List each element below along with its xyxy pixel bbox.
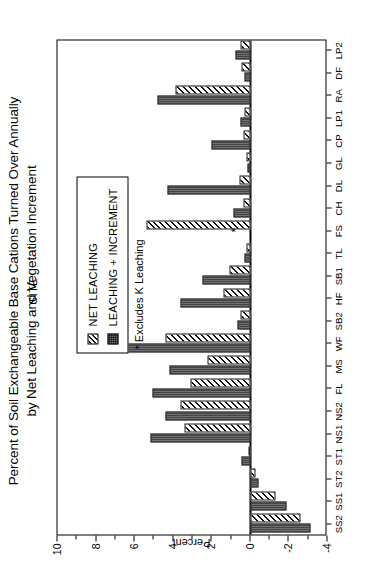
bar-DL-leaching-increment [167,185,250,194]
bar-GL-leaching-increment [247,163,250,172]
bar-FL-leaching-increment [152,388,250,397]
bar-DF-net-leaching [241,62,250,71]
legend-label-net-leaching: NET LEACHING [86,243,98,327]
x-axis-tick-label: DF [332,66,343,79]
bar-CH-leaching-increment [233,208,250,217]
bar-DL-net-leaching [239,175,250,184]
chart-figure: Percent of Soil Exchangeable Base Cation… [0,0,388,581]
x-axis-tick-label: DL [332,179,343,191]
y-axis-tick [287,535,288,541]
bar-TL-net-leaching [246,243,250,252]
x-axis-tick [326,455,331,456]
x-axis-tick-label: FS [332,225,343,237]
x-axis-tick [326,410,331,411]
y-axis-tick-label: 6 [127,543,139,549]
x-axis-tick-label: SB1 [332,267,343,285]
y-axis-tick [56,535,57,541]
stipple-swatch-icon [107,333,118,344]
bar-MS-leaching-increment [169,365,250,374]
bar-CP-net-leaching [243,130,250,139]
bar-DF-leaching-increment [244,72,250,81]
x-axis-tick-label: NS1 [332,424,343,443]
y-axis-minor-tick [75,535,76,539]
bar-GL-net-leaching [246,152,250,161]
bar-HF-net-leaching [223,288,250,297]
chart-title-line-1: Percent of Soil Exchangeable Base Cation… [4,0,22,581]
bar-SS2-net-leaching [250,513,300,522]
x-axis-tick-label: NS2 [332,402,343,421]
bar-ST2-leaching-increment [250,478,258,487]
hatch-swatch-icon [87,333,98,344]
y-axis-tick-label: -2 [281,543,293,552]
x-axis-tick [326,500,331,501]
bar-CP-leaching-increment [211,140,250,149]
rotated-figure: Percent of Soil Exchangeable Base Cation… [0,0,388,581]
bar-HF-leaching-increment [180,298,249,307]
x-axis-tick-label: FL [332,383,343,394]
bar-ST1-leaching-increment [241,456,250,465]
bar-RA-net-leaching [175,85,250,94]
x-axis-tick-label: ST1 [332,447,343,465]
screenshot-root: Percent of Soil Exchangeable Base Cation… [0,0,388,581]
x-axis-tick-label: GL [332,157,343,170]
x-axis-tick [326,433,331,434]
x-axis-tick [326,162,331,163]
bar-LP1-net-leaching [244,107,250,116]
x-axis-tick [326,185,331,186]
bar-LP2-net-leaching [240,40,250,49]
y-axis-tick-label: -4 [320,543,332,552]
bar-WF-net-leaching [165,333,250,342]
y-axis-tick-label: 8 [89,543,101,549]
x-axis-tick-label: MS [332,359,343,373]
x-axis-tick [326,230,331,231]
y-axis-minor-tick [191,535,192,539]
bar-LP1-leaching-increment [240,117,250,126]
x-axis-tick [326,72,331,73]
x-axis-tick [326,117,331,118]
bar-ST2-net-leaching [250,468,255,477]
bar-SS1-net-leaching [250,491,275,500]
bar-ST1-net-leaching [248,446,250,455]
bar-LP2-leaching-increment [235,50,249,59]
chart-legend: NET LEACHING LEACHING + INCREMENT [76,176,128,353]
bar-FL-net-leaching [190,378,250,387]
bar-NS2-net-leaching [180,400,249,409]
bar-CH-net-leaching [243,198,250,207]
bar-NS1-net-leaching [184,423,250,432]
x-axis-tick-label: WF [332,336,343,351]
legend-item-net-leaching: NET LEACHING [84,188,100,344]
bar-NS1-leaching-increment [150,433,250,442]
x-axis-tick-label: CP [332,134,343,147]
x-axis-title: SITE [26,0,38,581]
x-axis-tick [326,478,331,479]
x-axis-tick [326,94,331,95]
bar-MS-net-leaching [207,355,249,364]
x-axis-tick [326,275,331,276]
y-axis: Percent 1086420-2-4 [56,534,326,535]
bar-SB1-net-leaching [229,265,250,274]
x-axis-tick [326,252,331,253]
bar-NS2-leaching-increment [165,411,250,420]
y-axis-tick [95,535,96,541]
x-axis-tick [326,49,331,50]
x-axis-tick [326,342,331,343]
legend-item-leaching-increment: LEACHING + INCREMENT [104,188,120,344]
y-axis-tick [249,535,250,541]
y-axis-minor-tick [230,535,231,539]
x-axis-tick-label: SS2 [332,515,343,533]
y-axis-tick-label: 4 [166,543,178,549]
x-axis-tick [326,387,331,388]
x-axis-tick-label: RA [332,89,343,102]
bar-TL-leaching-increment [244,253,250,262]
bar-RA-leaching-increment [157,95,250,104]
x-axis-tick [326,365,331,366]
y-axis-tick-label: 2 [204,543,216,549]
bar-SS2-leaching-increment [250,523,310,532]
y-axis-tick [210,535,211,541]
y-axis-minor-tick [307,535,308,539]
x-axis-tick [326,207,331,208]
x-axis-tick [326,139,331,140]
x-axis-tick [326,320,331,321]
x-axis-tick-label: LP1 [332,109,343,126]
x-axis-tick [326,297,331,298]
